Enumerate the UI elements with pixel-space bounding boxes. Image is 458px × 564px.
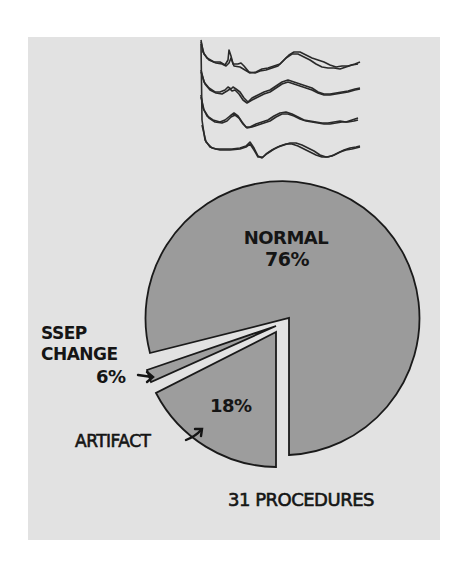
ssep-change-label: SSEP CHANGE	[41, 323, 118, 365]
pie-chart	[145, 181, 419, 467]
artifact-label: ARTIFACT	[75, 433, 150, 450]
ssep-label-line1: SSEP	[41, 323, 118, 344]
normal-label: NORMAL	[236, 229, 336, 247]
figure-graphics	[0, 0, 458, 564]
artifact-percentage: 18%	[210, 397, 252, 415]
ssep-change-percentage: 6%	[96, 368, 126, 386]
procedures-caption: 31 PROCEDURES	[228, 491, 374, 509]
ssep-waveform-inset	[201, 40, 360, 158]
normal-percentage: 76%	[252, 250, 322, 269]
ssep-label-line2: CHANGE	[41, 344, 118, 365]
